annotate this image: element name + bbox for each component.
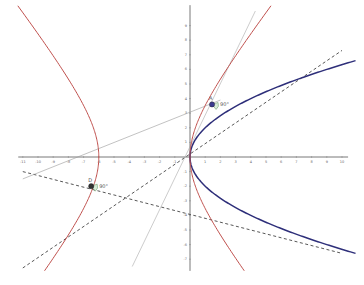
y-tick-label: -3 bbox=[184, 199, 188, 203]
y-tick-label: -4 bbox=[184, 213, 188, 217]
points-layer: A90°D90° bbox=[88, 95, 229, 191]
y-tick-label: 4 bbox=[185, 97, 188, 101]
x-tick-label: 8 bbox=[310, 160, 312, 164]
y-tick-label: 2 bbox=[185, 126, 187, 130]
y-tick-label: 6 bbox=[185, 67, 187, 71]
x-tick-label: 5 bbox=[265, 160, 267, 164]
x-tick-label: 9 bbox=[326, 160, 328, 164]
point-label: D bbox=[88, 177, 92, 183]
y-tick-label: 5 bbox=[185, 82, 187, 86]
x-tick-label: -5 bbox=[112, 160, 116, 164]
x-tick-label: -7 bbox=[82, 160, 86, 164]
x-tick-label: -2 bbox=[158, 160, 162, 164]
x-tick-label: -1 bbox=[173, 160, 177, 164]
graph-canvas: -11-10-9-8-7-6-5-4-3-2-112345678910-7-6-… bbox=[0, 0, 364, 285]
hyperbola-branch-right bbox=[190, 6, 271, 271]
y-tick-label: 8 bbox=[185, 38, 187, 42]
lines-layer bbox=[23, 11, 342, 268]
hyperbola-branch-left bbox=[18, 6, 99, 271]
point-label: A bbox=[209, 95, 213, 101]
x-tick-label: -9 bbox=[51, 160, 55, 164]
x-tick-label: 2 bbox=[219, 160, 221, 164]
y-tick-label: 9 bbox=[185, 24, 187, 28]
y-tick-label: -1 bbox=[184, 170, 188, 174]
y-tick-label: -7 bbox=[184, 257, 188, 261]
point-a bbox=[209, 102, 214, 107]
y-tick-label: 7 bbox=[185, 53, 187, 57]
y-tick-label: -6 bbox=[184, 243, 188, 247]
y-tick-label: -2 bbox=[184, 184, 188, 188]
y-tick-label: -5 bbox=[184, 228, 188, 232]
x-tick-label: -4 bbox=[127, 160, 131, 164]
axes: -11-10-9-8-7-6-5-4-3-2-112345678910-7-6-… bbox=[18, 5, 348, 271]
x-tick-label: 3 bbox=[234, 160, 236, 164]
x-tick-label: 4 bbox=[250, 160, 253, 164]
x-tick-label: 1 bbox=[204, 160, 206, 164]
y-tick-label: 1 bbox=[185, 140, 187, 144]
x-tick-label: 7 bbox=[295, 160, 297, 164]
x-tick-label: 6 bbox=[280, 160, 282, 164]
x-tick-label: -3 bbox=[143, 160, 147, 164]
line-gray-steep bbox=[132, 11, 255, 267]
angle-label: 90° bbox=[220, 101, 229, 107]
x-tick-label: -11 bbox=[20, 160, 26, 164]
tangent-line-dashed-lower bbox=[23, 172, 342, 254]
angle-label: 90° bbox=[99, 183, 108, 189]
x-tick-label: 10 bbox=[340, 160, 344, 164]
point-d bbox=[89, 184, 94, 189]
x-tick-label: -10 bbox=[35, 160, 41, 164]
